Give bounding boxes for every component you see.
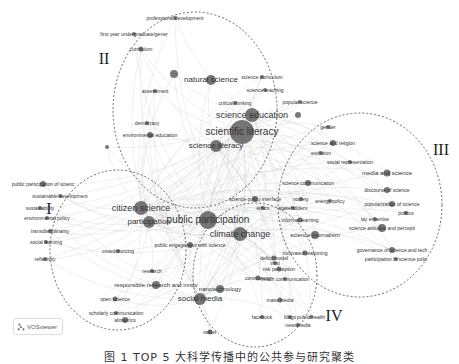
node-label: popular science [282,100,317,105]
node-label: natural science [184,76,238,84]
node-label: environmental education [123,133,177,138]
node-label: climate change [210,230,271,239]
vosviewer-logo-icon [17,323,25,331]
node-label: lay expertise [361,217,389,222]
node-label: citizen science [112,204,171,213]
node-label: social learning [30,240,62,245]
network-node[interactable] [170,70,178,78]
cluster-label-I: I [46,200,51,218]
network-edge [107,147,141,208]
node-label: public participation [167,215,250,225]
node-label: social representation [327,160,373,165]
node-label: curriculum [129,47,152,52]
node-label: public health [297,315,325,320]
node-label: science teaching [246,88,283,93]
node-label: sustainable development [32,194,87,199]
node-label: participation [127,218,170,226]
node-label: first year undergraduate/gener [100,32,167,37]
node-label: gender [320,125,336,130]
node-label: science and religion [311,141,355,146]
node-label: public engagement with science [155,243,226,248]
node-label: critical thinking [219,101,252,106]
node-label: popularization of science [364,202,419,207]
node-label: mass media [267,298,294,303]
node-label: health communication [261,277,310,282]
node-label: newsmedia [285,323,310,328]
node-label: motivated reasoning [282,251,327,256]
node-label: facebook [252,315,272,320]
node-label: society [293,197,309,202]
node-label: discourse of science [364,188,409,193]
node-label: science journalism [290,232,339,238]
node-label: altmetrics [114,318,135,323]
node-label: crowdsourcing [102,249,134,254]
network-node[interactable] [295,112,301,118]
node-label: media and science [362,170,412,176]
node-label: governance of science and tech [357,248,428,253]
node-label: transdisciplinarity [31,229,69,234]
node-label: research [142,269,161,274]
network-edge [134,34,208,220]
network-node[interactable] [105,145,109,149]
node-label: professional development [147,16,204,21]
node-label: stakeholders [279,206,307,211]
node-label: open science [100,297,129,302]
node-label: science literacy [189,142,244,150]
node-label: science communication [282,181,334,186]
node-label: science curriculum [241,75,282,80]
figure-caption: 图 1 TOP 5 大科学传播中的公共参与研究聚类 [0,348,459,364]
node-label: evolution [311,151,331,156]
node-label: politics [398,211,413,216]
node-label: public participation of scienc [12,182,75,187]
node-label: science education [216,111,288,120]
node-label: twitter [203,330,216,335]
node-label: scientific literacy [206,127,279,137]
node-label: social media [178,295,222,303]
node-label: blogs [284,315,296,320]
node-label: risk perception [263,267,296,272]
node-label: assessment [142,89,169,94]
node-label: scholarly communication [89,311,144,316]
network-edge [242,132,308,183]
cluster-label-IV: IV [326,307,343,325]
node-label: energy policy [315,199,344,204]
node-label: participation in science polic [365,257,427,262]
watermark-text: VOSviewer [27,324,57,330]
node-label: ethics [256,206,269,211]
vosviewer-watermark: VOSviewer [13,318,63,335]
node-label: trust [270,261,280,266]
cluster-label-III: III [433,141,449,159]
node-label: science-policy interface [229,197,281,202]
cluster-label-II: II [99,50,110,68]
node-label: deficit model [260,256,288,261]
node-label: responsible research and innov [114,282,197,288]
node-label: democracy [135,121,159,126]
node-label: science attitudes and percepti [349,226,415,231]
node-label: nanotechnology [199,286,241,292]
node-label: informal learning [282,218,319,223]
node-label: reflexivity [35,257,56,262]
